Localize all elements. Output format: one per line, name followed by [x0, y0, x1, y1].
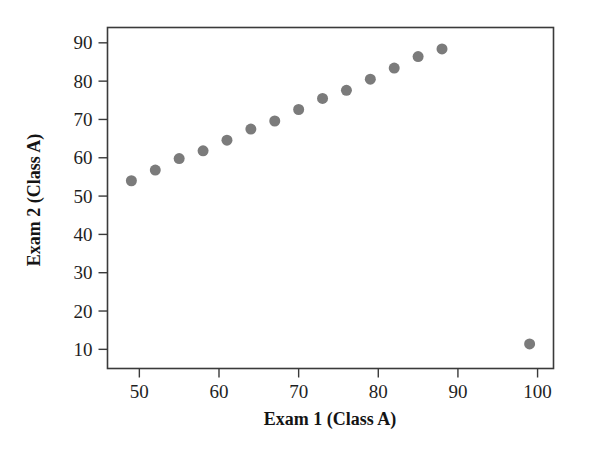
y-tick-label: 40: [74, 224, 93, 245]
y-tick-label: 60: [74, 147, 93, 168]
x-tick-label: 90: [448, 381, 467, 402]
data-point: [341, 85, 352, 96]
x-tick-label: 60: [210, 381, 229, 402]
data-point: [174, 153, 185, 164]
plot-frame: [108, 28, 554, 369]
data-point: [437, 43, 448, 54]
data-point: [198, 145, 209, 156]
y-tick-label: 70: [74, 109, 93, 130]
data-point: [389, 63, 400, 74]
data-point: [269, 115, 280, 126]
y-tick-label: 10: [74, 339, 93, 360]
x-tick-label: 80: [369, 381, 388, 402]
data-point: [126, 175, 137, 186]
data-point: [221, 135, 232, 146]
x-tick-label: 70: [289, 381, 308, 402]
x-axis-title: Exam 1 (Class A): [264, 409, 397, 430]
data-point: [293, 104, 304, 115]
x-axis-ticks: 5060708090100: [130, 369, 552, 402]
y-tick-label: 30: [74, 262, 93, 283]
scatter-plot-figure: 5060708090100 102030405060708090 Exam 1 …: [0, 0, 591, 462]
y-axis-ticks: 102030405060708090: [74, 32, 108, 360]
plot-canvas: 5060708090100 102030405060708090 Exam 1 …: [0, 0, 591, 462]
data-point: [413, 51, 424, 62]
y-tick-label: 50: [74, 186, 93, 207]
data-point: [150, 165, 161, 176]
y-tick-label: 20: [74, 301, 93, 322]
data-point: [524, 338, 535, 349]
data-point: [365, 74, 376, 85]
x-tick-label: 50: [130, 381, 149, 402]
data-point: [317, 93, 328, 104]
data-point: [245, 124, 256, 135]
plot-border: [108, 28, 554, 369]
y-tick-label: 90: [74, 32, 93, 53]
y-axis-title: Exam 2 (Class A): [24, 134, 45, 267]
y-tick-label: 80: [74, 71, 93, 92]
data-points-group: [126, 43, 535, 349]
x-tick-label: 100: [523, 381, 552, 402]
